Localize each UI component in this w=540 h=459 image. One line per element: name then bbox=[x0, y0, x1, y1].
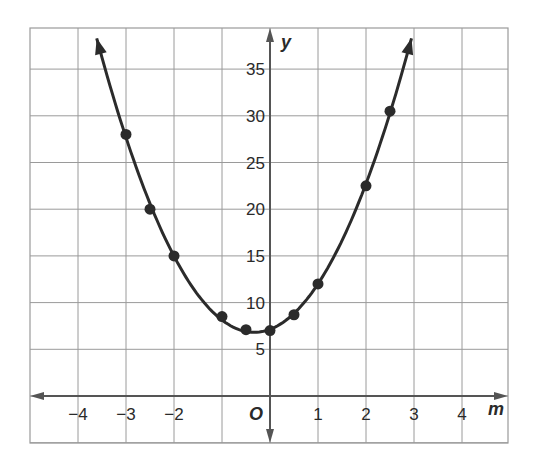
data-point bbox=[313, 278, 324, 289]
data-point bbox=[361, 180, 372, 191]
origin-label: O bbox=[249, 404, 263, 424]
curve-right-arrow-icon bbox=[402, 38, 414, 55]
data-point bbox=[121, 129, 132, 140]
y-tick-label: 25 bbox=[246, 154, 265, 173]
data-point bbox=[241, 324, 252, 335]
x-tick-label: −3 bbox=[116, 405, 135, 424]
x-tick-label: 2 bbox=[361, 405, 370, 424]
axes bbox=[30, 28, 508, 443]
y-axis-up-arrow-icon bbox=[266, 28, 274, 42]
y-axis-down-arrow-icon bbox=[266, 429, 274, 443]
x-axis-left-arrow-icon bbox=[30, 392, 44, 400]
y-tick-label: 30 bbox=[246, 107, 265, 126]
data-point bbox=[385, 106, 396, 117]
x-tick-label: −2 bbox=[164, 405, 183, 424]
x-tick-label: 3 bbox=[409, 405, 418, 424]
data-point bbox=[289, 309, 300, 320]
x-tick-label: −4 bbox=[68, 405, 87, 424]
y-tick-label: 35 bbox=[246, 60, 265, 79]
curve bbox=[95, 38, 413, 336]
data-point bbox=[217, 311, 228, 322]
data-point bbox=[169, 250, 180, 261]
x-tick-label: 4 bbox=[457, 405, 466, 424]
y-tick-label: 20 bbox=[246, 200, 265, 219]
x-axis-label: m bbox=[488, 399, 504, 419]
data-point bbox=[145, 204, 156, 215]
y-axis-label: y bbox=[280, 32, 292, 52]
parabola-chart: −4−3−212345101520253035Omy bbox=[0, 0, 540, 459]
y-tick-label: 10 bbox=[246, 294, 265, 313]
x-tick-label: 1 bbox=[313, 405, 322, 424]
y-tick-label: 5 bbox=[256, 340, 265, 359]
data-point bbox=[265, 325, 276, 336]
curve-left-arrow-icon bbox=[95, 38, 107, 55]
y-tick-label: 15 bbox=[246, 247, 265, 266]
tick-labels: −4−3−212345101520253035Omy bbox=[68, 32, 504, 424]
